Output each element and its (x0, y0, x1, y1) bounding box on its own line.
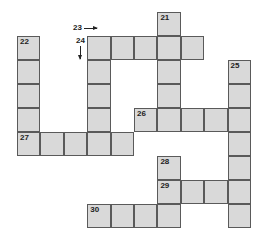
crossword-cell[interactable] (157, 84, 180, 108)
crossword-cell[interactable] (228, 84, 251, 108)
letter-input[interactable] (158, 181, 179, 203)
crossword-cell[interactable] (228, 132, 251, 156)
crossword-cell[interactable] (87, 36, 110, 60)
clue-label-24: 24 (76, 37, 85, 45)
clue-label-23: 23 (73, 24, 82, 32)
crossword-cell[interactable] (134, 204, 157, 228)
letter-input[interactable] (158, 109, 179, 131)
crossword-cell[interactable] (228, 180, 251, 204)
letter-input[interactable] (135, 109, 156, 131)
crossword-cell-26[interactable]: 26 (134, 108, 157, 132)
crossword-cell[interactable] (134, 36, 157, 60)
crossword-cell[interactable] (111, 36, 134, 60)
letter-input[interactable] (182, 181, 203, 203)
crossword-cell-25[interactable]: 25 (228, 60, 251, 84)
letter-input[interactable] (229, 109, 250, 131)
crossword-cell-29[interactable]: 29 (157, 180, 180, 204)
crossword-cell[interactable] (204, 180, 227, 204)
letter-input[interactable] (158, 61, 179, 83)
letter-input[interactable] (158, 157, 179, 179)
arrow-right-icon (84, 28, 97, 29)
letter-input[interactable] (135, 205, 156, 227)
crossword-cell-21[interactable]: 21 (157, 12, 180, 36)
letter-input[interactable] (229, 85, 250, 107)
crossword-cell-27[interactable]: 27 (17, 132, 40, 156)
letter-input[interactable] (229, 181, 250, 203)
crossword-cell[interactable] (111, 204, 134, 228)
letter-input[interactable] (229, 61, 250, 83)
crossword-cell[interactable] (87, 84, 110, 108)
letter-input[interactable] (88, 109, 109, 131)
letter-input[interactable] (112, 205, 133, 227)
letter-input[interactable] (229, 133, 250, 155)
crossword-cell-28[interactable]: 28 (157, 156, 180, 180)
letter-input[interactable] (88, 205, 109, 227)
crossword-cell[interactable] (87, 132, 110, 156)
letter-input[interactable] (112, 37, 133, 59)
letter-input[interactable] (158, 13, 179, 35)
letter-input[interactable] (18, 109, 39, 131)
crossword-cell[interactable] (157, 108, 180, 132)
crossword-cell[interactable] (17, 108, 40, 132)
crossword-cell[interactable] (204, 108, 227, 132)
arrow-down-icon (80, 46, 81, 59)
letter-input[interactable] (135, 37, 156, 59)
letter-input[interactable] (88, 37, 109, 59)
letter-input[interactable] (18, 133, 39, 155)
letter-input[interactable] (182, 37, 203, 59)
letter-input[interactable] (158, 37, 179, 59)
crossword-cell[interactable] (87, 60, 110, 84)
letter-input[interactable] (229, 205, 250, 227)
crossword-cell[interactable] (181, 36, 204, 60)
letter-input[interactable] (88, 61, 109, 83)
crossword-cell[interactable] (157, 204, 180, 228)
crossword-cell[interactable] (17, 60, 40, 84)
crossword-cell[interactable] (228, 156, 251, 180)
letter-input[interactable] (205, 181, 226, 203)
crossword-cell[interactable] (157, 36, 180, 60)
crossword-cell[interactable] (40, 132, 63, 156)
letter-input[interactable] (88, 133, 109, 155)
letter-input[interactable] (158, 205, 179, 227)
letter-input[interactable] (65, 133, 86, 155)
crossword-grid: 23 24 2122252627282930 (0, 0, 265, 244)
crossword-cell-30[interactable]: 30 (87, 204, 110, 228)
letter-input[interactable] (18, 37, 39, 59)
crossword-cell[interactable] (64, 132, 87, 156)
letter-input[interactable] (112, 133, 133, 155)
letter-input[interactable] (18, 61, 39, 83)
crossword-cell[interactable] (111, 132, 134, 156)
letter-input[interactable] (229, 157, 250, 179)
letter-input[interactable] (88, 85, 109, 107)
crossword-cell[interactable] (87, 108, 110, 132)
letter-input[interactable] (158, 85, 179, 107)
letter-input[interactable] (205, 109, 226, 131)
letter-input[interactable] (18, 85, 39, 107)
crossword-cell[interactable] (157, 60, 180, 84)
crossword-cell[interactable] (181, 180, 204, 204)
crossword-cell[interactable] (228, 204, 251, 228)
letter-input[interactable] (41, 133, 62, 155)
crossword-cell[interactable] (228, 108, 251, 132)
letter-input[interactable] (182, 109, 203, 131)
crossword-cell-22[interactable]: 22 (17, 36, 40, 60)
crossword-cell[interactable] (17, 84, 40, 108)
crossword-cell[interactable] (181, 108, 204, 132)
